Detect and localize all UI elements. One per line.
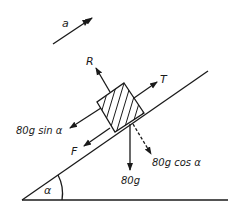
angle-arc [58,175,63,200]
tension-arrow [134,82,157,98]
perpendicular-weight-arrow [133,124,151,154]
weight-label: 80g [121,175,140,186]
parallel-weight-label: 80g sin α [16,125,63,136]
inclined-plane-diagram: a α R T 80g sin α F 80g 80g cos α [0,0,231,212]
perpendicular-weight-label: 80g cos α [152,157,201,168]
block [93,80,153,140]
acceleration-arrow [53,18,92,44]
reaction-label: R [86,55,94,68]
angle-label: α [44,184,52,197]
reaction-arrow [96,68,110,92]
tension-label: T [160,73,168,86]
acceleration-label: a [62,17,69,30]
friction-arrow [84,128,110,146]
parallel-weight-arrow [70,108,101,128]
friction-label: F [71,145,78,158]
